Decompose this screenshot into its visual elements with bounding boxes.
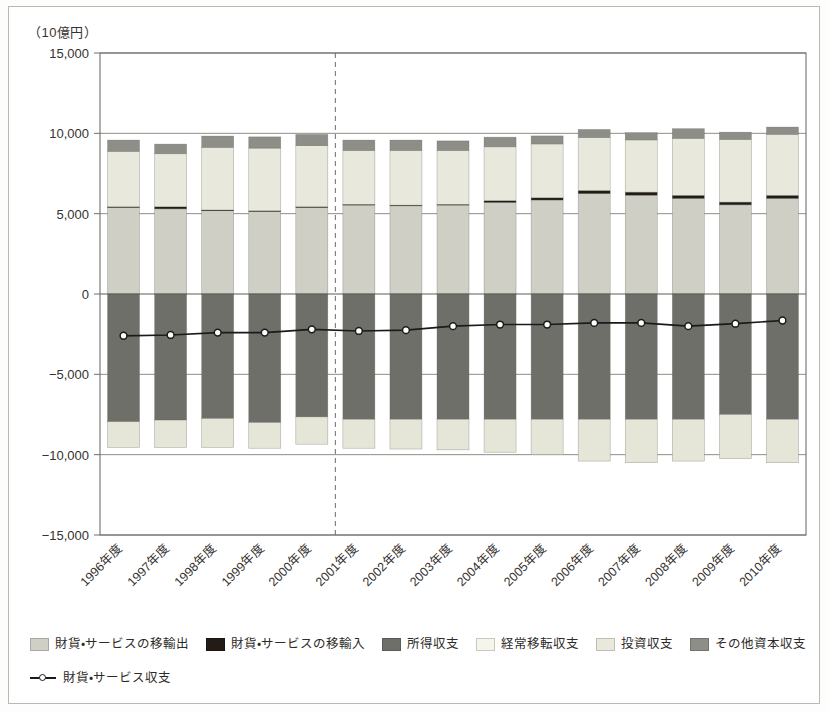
y-tick-label: −5,000 xyxy=(49,367,89,382)
x-tick-label: 2009年度 xyxy=(689,541,738,590)
y-tick-label: −10,000 xyxy=(42,448,89,463)
legend-label: 財貨・サービスの移輸出 xyxy=(55,638,189,651)
x-axis-tick-labels: 1996年度1997年度1998年度1999年度2000年度2001年度2002… xyxy=(77,541,785,590)
x-tick-label: 2007年度 xyxy=(595,541,644,590)
legend-swatch xyxy=(206,638,225,651)
x-tick-label: 2004年度 xyxy=(454,541,503,590)
plot-area-wrapper: 15,00010,0005,0000−5,000−10,000−15,000 1… xyxy=(0,0,828,711)
x-tick-label: 2010年度 xyxy=(736,541,785,590)
legend-label: 財貨・サービスの移輸入 xyxy=(231,638,365,651)
legend-swatch xyxy=(30,638,49,651)
y-tick-label: −15,000 xyxy=(42,528,89,543)
legend-item[interactable]: 経常移転収支 xyxy=(476,638,579,651)
legend-item[interactable]: 投資収支 xyxy=(596,638,673,651)
legend-item[interactable]: 所得収支 xyxy=(382,638,459,651)
x-tick-label: 2008年度 xyxy=(642,541,691,590)
x-tick-label: 2005年度 xyxy=(501,541,550,590)
chart-figure: （10億円） 15,00010,0005,0000−5,000−10,000−1… xyxy=(0,0,828,711)
y-tick-label: 15,000 xyxy=(49,46,89,61)
x-tick-label: 1999年度 xyxy=(218,541,267,590)
x-tick-label: 2002年度 xyxy=(359,541,408,590)
legend-label: その他資本収支 xyxy=(715,638,806,651)
x-tick-label: 1998年度 xyxy=(171,541,220,590)
legend-label: 財貨・サービス収支 xyxy=(63,672,171,685)
x-tick-label: 2003年度 xyxy=(406,541,455,590)
legend-label: 所得収支 xyxy=(407,638,459,651)
legend-swatch xyxy=(690,638,709,651)
bar-series-layer xyxy=(108,127,799,463)
x-tick-label: 1997年度 xyxy=(124,541,173,590)
line-marker-icon xyxy=(30,672,56,684)
legend-label: 経常移転収支 xyxy=(501,638,579,651)
legend-item[interactable]: その他資本収支 xyxy=(690,638,806,651)
legend-item[interactable]: 財貨・サービスの移輸入 xyxy=(206,638,365,651)
y-axis-tick-labels: 15,00010,0005,0000−5,000−10,000−15,000 xyxy=(42,46,89,543)
legend-swatch xyxy=(382,638,401,651)
y-tick-label: 5,000 xyxy=(56,207,89,222)
x-tick-label: 2000年度 xyxy=(265,541,314,590)
legend-swatch xyxy=(596,638,615,651)
legend-label: 投資収支 xyxy=(621,638,673,651)
stacked-bar-chart: 15,00010,0005,0000−5,000−10,000−15,000 1… xyxy=(0,0,828,711)
x-tick-label: 2001年度 xyxy=(312,541,361,590)
y-tick-label: 10,000 xyxy=(49,126,89,141)
legend-line: 財貨・サービス収支 xyxy=(30,672,188,685)
x-tick-label: 2006年度 xyxy=(548,541,597,590)
legend-item[interactable]: 財貨・サービス収支 xyxy=(30,672,171,685)
y-tick-label: 0 xyxy=(82,287,89,302)
legend-bars: 財貨・サービスの移輸出財貨・サービスの移輸入所得収支経常移転収支投資収支その他資… xyxy=(30,638,823,651)
legend-item[interactable]: 財貨・サービスの移輸出 xyxy=(30,638,189,651)
x-tick-label: 1996年度 xyxy=(77,541,126,590)
legend-swatch xyxy=(476,638,495,651)
